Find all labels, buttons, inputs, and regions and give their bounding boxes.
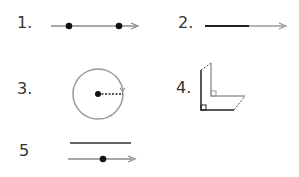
point-icon — [100, 156, 107, 163]
diagram-figures — [0, 0, 299, 177]
figure-1-ray-with-points — [51, 23, 138, 30]
point-icon — [66, 23, 73, 30]
figure-2-ray — [205, 23, 286, 29]
figure-3-circle — [73, 69, 125, 119]
center-point-icon — [95, 91, 101, 97]
figure-5-segment-and-ray — [68, 143, 135, 162]
point-icon — [116, 23, 123, 30]
figure-4-right-angles — [201, 63, 245, 110]
